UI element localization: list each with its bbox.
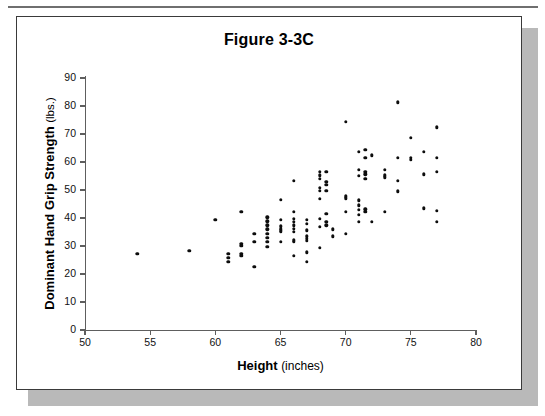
data-point (435, 126, 438, 129)
data-point (324, 170, 327, 173)
data-point (266, 245, 269, 248)
data-point (318, 177, 321, 180)
data-point (422, 150, 425, 153)
data-point (383, 175, 386, 178)
data-point (409, 136, 412, 139)
y-tick-mark (80, 245, 85, 246)
data-point (240, 244, 243, 247)
data-point (324, 189, 327, 192)
data-point (253, 232, 256, 235)
data-point (422, 173, 425, 176)
data-point (279, 240, 282, 243)
data-point (305, 239, 308, 242)
x-tick-mark (215, 330, 216, 335)
data-point (422, 206, 425, 209)
x-tick-label: 70 (331, 336, 361, 348)
data-point (318, 197, 321, 200)
data-point (188, 249, 191, 252)
x-tick-mark (410, 330, 411, 335)
data-point (370, 220, 373, 223)
data-point (305, 229, 308, 232)
data-point (253, 265, 256, 268)
data-point (266, 236, 269, 239)
data-point (364, 156, 367, 159)
data-point (214, 218, 217, 221)
data-point (383, 210, 386, 213)
y-tick-mark (80, 77, 85, 78)
data-point (357, 150, 360, 153)
data-point (227, 252, 230, 255)
data-point (292, 240, 295, 243)
data-point (435, 220, 438, 223)
data-point (357, 199, 360, 202)
data-point (266, 240, 269, 243)
data-point (305, 260, 308, 263)
data-point (396, 190, 399, 193)
data-point (344, 197, 347, 200)
data-point (292, 210, 295, 213)
data-point (292, 254, 295, 257)
x-tick-mark (280, 330, 281, 335)
data-point (318, 217, 321, 220)
data-point (324, 183, 327, 186)
data-point (135, 252, 138, 255)
data-point (266, 216, 269, 219)
data-point (396, 156, 399, 159)
data-point (370, 154, 373, 157)
data-point (324, 224, 327, 227)
data-point (240, 254, 243, 257)
data-point (305, 250, 308, 253)
data-point (357, 174, 360, 177)
data-point (357, 220, 360, 223)
data-point (344, 120, 347, 123)
figure-page: Figure 3-3C 0102030405060708090 50556065… (0, 0, 545, 416)
data-point (227, 260, 230, 263)
data-point (435, 170, 438, 173)
data-point (435, 209, 438, 212)
y-tick-mark (80, 133, 85, 134)
data-point (409, 158, 412, 161)
data-point (344, 232, 347, 235)
x-tick-mark (150, 330, 151, 335)
x-tick-label: 60 (200, 336, 230, 348)
data-point (305, 222, 308, 225)
data-point (331, 227, 334, 230)
data-point (279, 198, 282, 201)
data-point (364, 210, 367, 213)
data-point (279, 218, 282, 221)
data-point (357, 213, 360, 216)
data-point (227, 256, 230, 259)
data-point (266, 220, 269, 223)
data-point (292, 179, 295, 182)
data-point (279, 230, 282, 233)
data-point (292, 230, 295, 233)
data-point (357, 204, 360, 207)
x-tick-label: 65 (266, 336, 296, 348)
y-axis-title-unit: (lbs.) (44, 97, 56, 123)
data-point (318, 189, 321, 192)
x-tick-mark (475, 330, 476, 335)
data-point (266, 227, 269, 230)
data-point (324, 212, 327, 215)
x-tick-mark (345, 330, 346, 335)
x-tick-label: 55 (135, 336, 165, 348)
y-axis-line (85, 76, 86, 331)
data-point (364, 177, 367, 180)
data-point (396, 179, 399, 182)
scatter-plot: 0102030405060708090 50556065707580 Heigh… (0, 0, 545, 416)
data-point (435, 156, 438, 159)
x-tick-label: 75 (396, 336, 426, 348)
data-point (305, 218, 308, 221)
data-point (331, 235, 334, 238)
data-point (357, 208, 360, 211)
y-tick-mark (80, 105, 85, 106)
x-tick-mark (84, 330, 85, 335)
y-axis-title-main: Dominant Hand Grip Strength (42, 126, 57, 309)
x-tick-label: 80 (461, 336, 491, 348)
data-point (383, 168, 386, 171)
x-tick-label: 50 (70, 336, 100, 348)
data-point (266, 224, 269, 227)
x-axis-title-main: Height (237, 358, 277, 373)
data-point (240, 210, 243, 213)
y-tick-mark (80, 161, 85, 162)
